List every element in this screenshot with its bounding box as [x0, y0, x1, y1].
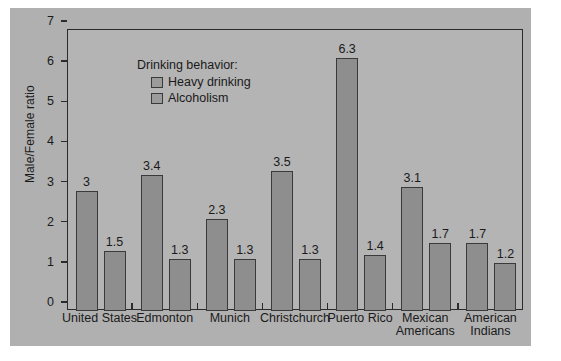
plot-frame: 31.53.41.32.31.33.51.36.31.43.11.71.71.2… — [67, 29, 523, 310]
bar-value-label: 3 — [67, 176, 107, 189]
y-axis-tick-label: 1 — [32, 256, 54, 269]
bar-value-label: 1.7 — [457, 228, 497, 241]
x-axis-tick-mark — [262, 303, 264, 309]
bar-value-label: 1.5 — [95, 236, 135, 249]
x-axis-category-label: American Indians — [450, 312, 530, 338]
heavy-drinking-swatch-icon — [151, 77, 163, 88]
x-axis-tick-mark — [457, 303, 459, 309]
legend-label-alcoholism: Alcoholism — [168, 91, 228, 105]
y-axis-tick-label: 5 — [32, 95, 54, 108]
bar-value-label: 1.3 — [290, 244, 330, 257]
bar-value-label: 3.1 — [392, 172, 432, 185]
bar — [364, 255, 386, 311]
legend-item-heavy-drinking: Heavy drinking — [151, 75, 251, 89]
bar — [429, 243, 451, 311]
bar — [401, 187, 423, 311]
bar — [271, 171, 293, 312]
bar-value-label: 1.2 — [485, 248, 525, 261]
bar-value-label: 1.3 — [225, 244, 265, 257]
y-axis-tick-label: 7 — [32, 15, 54, 28]
alcoholism-swatch-icon — [151, 93, 163, 104]
y-axis-tick-label: 6 — [32, 55, 54, 68]
legend-item-alcoholism: Alcoholism — [151, 91, 251, 105]
bar — [206, 219, 228, 311]
x-axis-tick-mark — [131, 303, 133, 309]
y-axis-tick-label: 4 — [32, 135, 54, 148]
chart-figure: Male/Female ratio 01234567 31.53.41.32.3… — [0, 0, 561, 361]
bar — [494, 263, 516, 311]
y-axis-tick-mark — [61, 20, 67, 22]
y-axis-tick-label: 3 — [32, 175, 54, 188]
bar-value-label: 1.7 — [420, 228, 460, 241]
bar-value-label: 1.4 — [355, 240, 395, 253]
bar — [169, 259, 191, 311]
bar-value-label: 2.3 — [197, 204, 237, 217]
chart-legend: Drinking behavior: Heavy drinking Alcoho… — [131, 55, 259, 111]
bar-value-label: 3.5 — [262, 156, 302, 169]
x-axis-tick-mark — [327, 303, 329, 309]
bar-value-label: 6.3 — [327, 43, 367, 56]
x-axis-tick-mark — [197, 303, 199, 309]
bar — [299, 259, 321, 311]
bar — [76, 191, 98, 311]
bar — [104, 251, 126, 311]
chart-panel: Male/Female ratio 01234567 31.53.41.32.3… — [10, 8, 531, 346]
bar-value-label: 3.4 — [132, 160, 172, 173]
bar — [336, 58, 358, 311]
x-axis-tick-mark — [392, 303, 394, 309]
bar — [141, 175, 163, 311]
legend-label-heavy-drinking: Heavy drinking — [168, 75, 251, 89]
y-axis-tick-label: 0 — [32, 296, 54, 309]
legend-title: Drinking behavior: — [137, 58, 251, 72]
bar — [234, 259, 256, 311]
y-axis-tick-label: 2 — [32, 215, 54, 228]
bar-value-label: 1.3 — [160, 244, 200, 257]
